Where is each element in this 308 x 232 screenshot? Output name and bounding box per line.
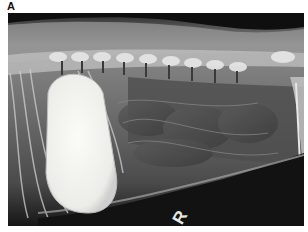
radiograph-image: R [8,13,304,226]
panel-label: A [7,0,15,12]
radiograph-illustration [8,13,304,226]
